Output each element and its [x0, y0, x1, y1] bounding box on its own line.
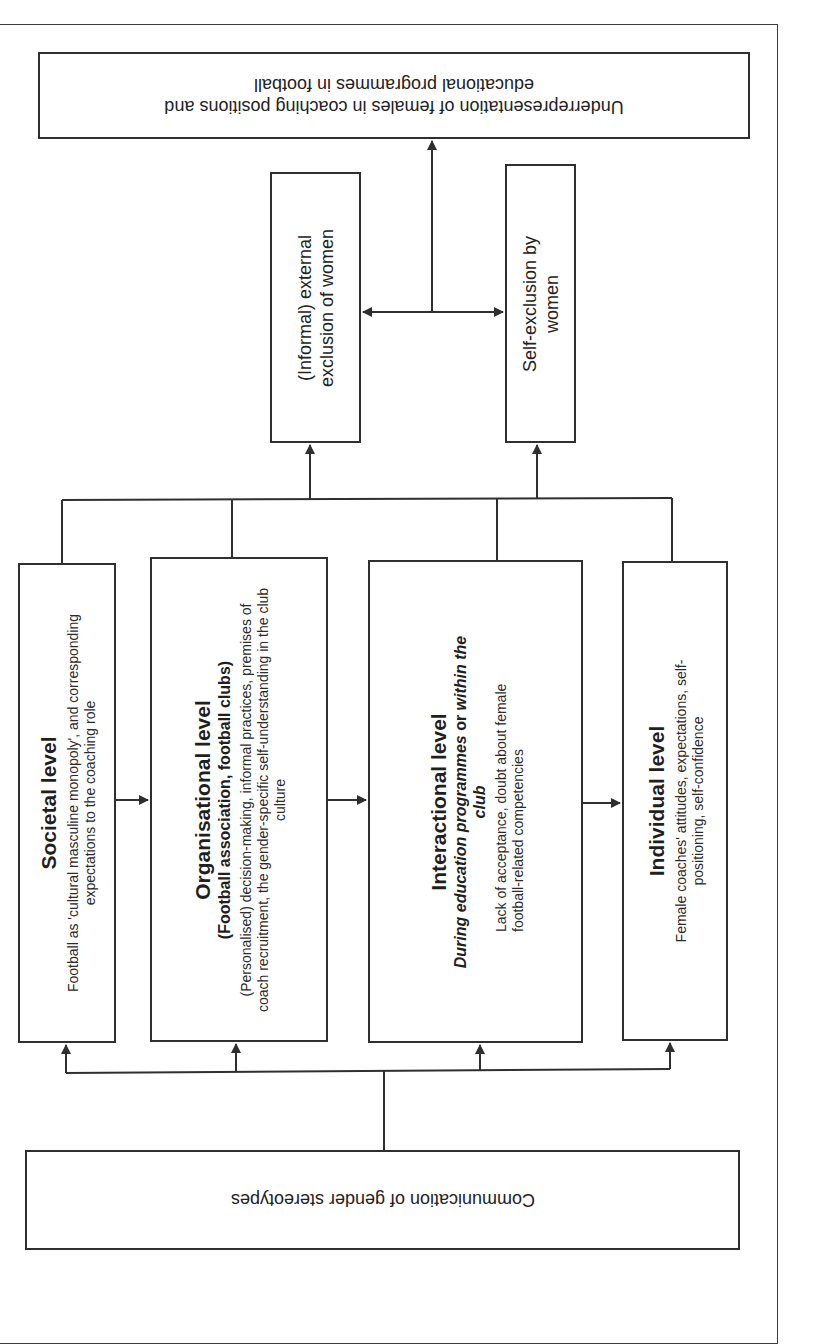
upper-bus-line	[62, 498, 672, 500]
lower-bus-line	[66, 1069, 670, 1073]
